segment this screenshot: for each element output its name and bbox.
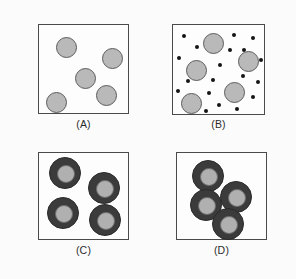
dot (204, 109, 209, 114)
coated-particle (192, 160, 224, 192)
dot (176, 89, 181, 94)
dot (182, 34, 187, 39)
panel-c (38, 152, 129, 240)
panel-a (38, 24, 129, 114)
dot (207, 91, 212, 96)
coated-particle (89, 204, 121, 236)
particle (56, 37, 77, 58)
dot (186, 79, 191, 84)
panel-d-label: (D) (176, 244, 267, 256)
dot (235, 107, 240, 112)
coated-particle (49, 157, 81, 189)
particle-core (228, 189, 246, 207)
particle (238, 51, 259, 72)
dot (228, 48, 233, 53)
particle-core (57, 165, 75, 183)
particle (181, 93, 202, 114)
dot (251, 95, 256, 100)
particle (96, 85, 117, 106)
particle-core (96, 180, 114, 198)
panel-a-label: (A) (38, 118, 129, 130)
panel-c-box (38, 152, 129, 240)
panel-c-label: (C) (38, 244, 129, 256)
particle (186, 60, 207, 81)
coated-particle (47, 197, 79, 229)
particle (203, 33, 224, 54)
particle (46, 92, 67, 113)
particle (102, 48, 123, 69)
particle-core (97, 212, 115, 230)
particle (224, 82, 245, 103)
dot (241, 74, 246, 79)
panel-b (172, 24, 265, 115)
coated-particle (88, 172, 120, 204)
particle-core (220, 216, 238, 234)
particle-core (55, 205, 73, 223)
panel-b-label: (B) (172, 118, 265, 130)
particle-core (198, 197, 216, 215)
particle (75, 68, 96, 89)
dot (251, 36, 256, 41)
figure-canvas: (A)(B)(C)(D) (0, 0, 296, 279)
panel-a-box (38, 24, 129, 114)
dot (195, 45, 200, 50)
coated-particle (212, 208, 244, 240)
panel-d-box (176, 152, 267, 240)
dot (256, 80, 261, 85)
dot (211, 78, 216, 83)
dot (218, 63, 223, 68)
panel-b-box (172, 24, 265, 115)
dot (217, 103, 222, 108)
panel-d (176, 152, 267, 240)
dot (177, 56, 182, 61)
dot (259, 58, 264, 63)
dot (232, 33, 237, 38)
particle-core (200, 168, 218, 186)
